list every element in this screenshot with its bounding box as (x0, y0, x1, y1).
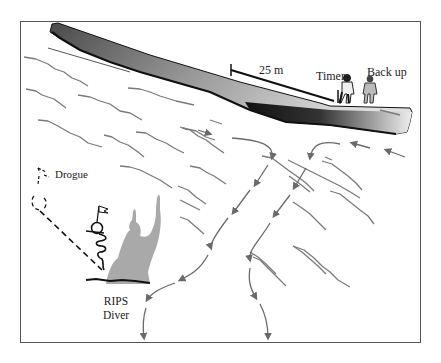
diagram-canvas (0, 0, 441, 363)
timer-label: Timer (316, 70, 345, 82)
pier (48, 23, 412, 134)
distance-label: 25 m (259, 64, 283, 76)
drogue (32, 168, 102, 270)
rip-current-diagram: 25 m Timer Back up Drogue RIPS Diver (0, 0, 441, 363)
rips-diver (86, 195, 161, 284)
diver-label-line2: Diver (96, 310, 136, 322)
backup-person (363, 76, 377, 103)
diver-label-line1: RIPS (96, 296, 136, 308)
rip-current-arrows (143, 130, 405, 338)
drogue-label: Drogue (55, 169, 88, 180)
backup-label: Back up (367, 66, 407, 78)
diver-label: RIPS Diver (96, 296, 136, 321)
